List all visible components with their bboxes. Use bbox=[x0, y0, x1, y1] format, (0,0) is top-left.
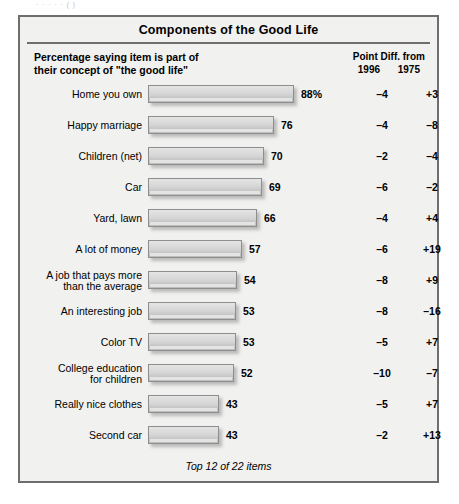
value-label: 88% bbox=[301, 84, 322, 104]
point-diff-year-1996: 1996 bbox=[358, 64, 380, 77]
category-label: Home you own bbox=[20, 89, 148, 101]
bar-track: 43–2+13 bbox=[148, 425, 298, 447]
category-label: Really nice clothes bbox=[20, 399, 148, 411]
diff-1975-value: –7 bbox=[410, 363, 454, 383]
bar-row-inner: An interesting job53–8–16 bbox=[20, 301, 437, 323]
diff-1975-value: +7 bbox=[410, 332, 454, 352]
bar-row-inner: Really nice clothes43–5+7 bbox=[20, 394, 437, 416]
value-label: 69 bbox=[269, 177, 281, 197]
panel-title: Components of the Good Life bbox=[139, 23, 319, 37]
bar-track: 70–2–4 bbox=[148, 146, 298, 168]
value-bar bbox=[148, 333, 236, 351]
bar-row: A lot of money57–6+19 bbox=[20, 239, 437, 270]
diff-1996-value: –5 bbox=[360, 394, 404, 414]
bar-row: College education for children52–10–7 bbox=[20, 363, 437, 394]
bar-track: 88%–4+3 bbox=[148, 84, 298, 106]
value-bar bbox=[148, 209, 257, 227]
diff-1975-value: +7 bbox=[410, 394, 454, 414]
diff-1996-value: –10 bbox=[360, 363, 404, 383]
bar-row-inner: Color TV53–5+7 bbox=[20, 332, 437, 354]
bar-row: Really nice clothes43–5+7 bbox=[20, 394, 437, 425]
category-label: An interesting job bbox=[20, 306, 148, 318]
bar-row-inner: College education for children52–10–7 bbox=[20, 363, 437, 385]
value-label: 52 bbox=[241, 363, 253, 383]
diff-1975-value: –16 bbox=[410, 301, 454, 321]
value-bar bbox=[148, 302, 236, 320]
diff-1996-value: –8 bbox=[360, 270, 404, 290]
diff-1975-value: +3 bbox=[410, 84, 454, 104]
percentage-header: Percentage saying item is part of their … bbox=[34, 51, 199, 76]
value-label: 54 bbox=[244, 270, 256, 290]
bar-row-inner: Happy marriage76–4–8 bbox=[20, 115, 437, 137]
panel-title-bar: Components of the Good Life bbox=[20, 17, 437, 42]
bar-row-inner: A lot of money57–6+19 bbox=[20, 239, 437, 261]
bar-row: Home you own88%–4+3 bbox=[20, 84, 437, 115]
category-label: Second car bbox=[20, 430, 148, 442]
point-diff-years: 1996 1975 bbox=[353, 64, 425, 77]
diff-1996-value: –4 bbox=[360, 115, 404, 135]
value-bar bbox=[148, 116, 274, 134]
diff-1996-value: –6 bbox=[360, 177, 404, 197]
bar-track: 43–5+7 bbox=[148, 394, 298, 416]
category-label: College education for children bbox=[20, 363, 148, 386]
value-bar bbox=[148, 147, 264, 165]
diff-1975-value: +13 bbox=[410, 425, 454, 445]
bar-track: 53–8–16 bbox=[148, 301, 298, 323]
value-bar bbox=[148, 395, 219, 413]
bar-track: 52–10–7 bbox=[148, 363, 298, 385]
value-label: 76 bbox=[281, 115, 293, 135]
bar-track: 76–4–8 bbox=[148, 115, 298, 137]
bar-track: 57–6+19 bbox=[148, 239, 298, 261]
chart-footnote: Top 12 of 22 items bbox=[20, 460, 437, 472]
value-label: 43 bbox=[226, 425, 238, 445]
bar-rows: Home you own88%–4+3Happy marriage76–4–8C… bbox=[20, 84, 437, 456]
diff-1996-value: –4 bbox=[360, 84, 404, 104]
category-label: Happy marriage bbox=[20, 120, 148, 132]
value-label: 66 bbox=[264, 208, 276, 228]
diff-1975-value: +4 bbox=[410, 208, 454, 228]
diff-1996-value: –4 bbox=[360, 208, 404, 228]
value-label: 53 bbox=[243, 301, 255, 321]
category-label: A lot of money bbox=[20, 244, 148, 256]
diff-1996-value: –5 bbox=[360, 332, 404, 352]
value-label: 43 bbox=[226, 394, 238, 414]
bar-row: Second car43–2+13 bbox=[20, 425, 437, 456]
scan-artifact-top-text: · · · · · ( ) bbox=[0, 0, 459, 9]
percentage-header-line1: Percentage saying item is part of bbox=[34, 51, 199, 64]
bar-row: Car69–6–2 bbox=[20, 177, 437, 208]
value-label: 57 bbox=[249, 239, 261, 259]
diff-1975-value: –8 bbox=[410, 115, 454, 135]
percentage-header-line2: their concept of "the good life" bbox=[34, 64, 199, 77]
bar-track: 54–8+9 bbox=[148, 270, 298, 292]
bar-row: Color TV53–5+7 bbox=[20, 332, 437, 363]
bar-row-inner: A job that pays more than the average54–… bbox=[20, 270, 437, 292]
diff-1975-value: –4 bbox=[410, 146, 454, 166]
point-diff-title: Point Diff. from bbox=[353, 51, 425, 64]
bar-row-inner: Yard, lawn66–4+4 bbox=[20, 208, 437, 230]
value-bar bbox=[148, 271, 237, 289]
category-label: Color TV bbox=[20, 337, 148, 349]
bar-row: Children (net)70–2–4 bbox=[20, 146, 437, 177]
bar-row-inner: Home you own88%–4+3 bbox=[20, 84, 437, 106]
value-bar bbox=[148, 85, 294, 103]
bar-track: 66–4+4 bbox=[148, 208, 298, 230]
bar-row: Yard, lawn66–4+4 bbox=[20, 208, 437, 239]
diff-1975-value: +19 bbox=[410, 239, 454, 259]
category-label: Car bbox=[20, 182, 148, 194]
bar-row: An interesting job53–8–16 bbox=[20, 301, 437, 332]
point-diff-header: Point Diff. from 1996 1975 bbox=[353, 51, 425, 76]
value-bar bbox=[148, 426, 219, 444]
bar-row-inner: Children (net)70–2–4 bbox=[20, 146, 437, 168]
diff-1975-value: –2 bbox=[410, 177, 454, 197]
bar-track: 69–6–2 bbox=[148, 177, 298, 199]
bar-track: 53–5+7 bbox=[148, 332, 298, 354]
value-bar bbox=[148, 178, 262, 196]
value-bar bbox=[148, 240, 242, 258]
diff-1996-value: –8 bbox=[360, 301, 404, 321]
point-diff-year-1975: 1975 bbox=[398, 64, 420, 77]
bar-row: A job that pays more than the average54–… bbox=[20, 270, 437, 301]
category-label: Yard, lawn bbox=[20, 213, 148, 225]
bar-row: Happy marriage76–4–8 bbox=[20, 115, 437, 146]
diff-1996-value: –6 bbox=[360, 239, 404, 259]
value-label: 70 bbox=[271, 146, 283, 166]
